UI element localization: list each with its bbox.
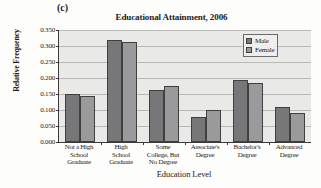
bar-female — [206, 110, 221, 142]
y-tick-mark — [56, 142, 59, 143]
x-category-label-line: Graduate — [100, 159, 142, 167]
x-category-label: Not a HighSchoolGraduate — [58, 144, 100, 167]
x-axis-title: Education Level — [58, 169, 310, 179]
x-category-label-line: Degree — [268, 152, 310, 160]
bar-female — [290, 113, 305, 142]
legend: MaleFemale — [243, 34, 278, 57]
legend-label: Female — [255, 46, 274, 54]
bar-female — [80, 96, 95, 142]
bar-female — [122, 42, 137, 142]
legend-label: Male — [255, 37, 269, 45]
bar-male — [107, 40, 122, 142]
y-tick-label: 0.300 — [40, 42, 55, 50]
y-axis-title: Relative Frequency — [12, 6, 21, 116]
y-tick-label: 0.050 — [40, 122, 55, 130]
y-tick-label: 0.150 — [40, 90, 55, 98]
chart-title: Educational Attainment, 2006 — [0, 12, 321, 22]
y-tick-label: 0.200 — [40, 74, 55, 82]
bar-male — [191, 117, 206, 142]
bar-group — [143, 30, 185, 142]
legend-item-female: Female — [246, 46, 274, 54]
y-tick-label: 0.250 — [40, 58, 55, 66]
legend-swatch-male — [246, 38, 252, 44]
x-category-label: Bachelor'sDegree — [226, 144, 268, 159]
bar-group — [185, 30, 227, 142]
y-tick-label: 0.000 — [40, 138, 55, 146]
bar-male — [233, 80, 248, 142]
bar-group — [101, 30, 143, 142]
legend-swatch-female — [246, 47, 252, 53]
bar-male — [149, 90, 164, 142]
bar-male — [275, 107, 290, 142]
bar-female — [164, 86, 179, 142]
x-category-label: AdvancedDegree — [268, 144, 310, 159]
y-tick-label: 0.350 — [40, 26, 55, 34]
x-category-label: Associate'sDegree — [184, 144, 226, 159]
x-category-label-line: Degree — [184, 152, 226, 160]
x-category-label: HighSchoolGraduate — [100, 144, 142, 167]
x-category-label-line: No Degree — [142, 159, 184, 167]
bar-group — [59, 30, 101, 142]
bar-male — [65, 94, 80, 142]
x-category-label: SomeCollege, ButNo Degree — [142, 144, 184, 167]
x-category-label-line: Degree — [226, 152, 268, 160]
legend-item-male: Male — [246, 37, 274, 45]
bar-female — [248, 83, 263, 142]
figure: (c) Educational Attainment, 2006 Relativ… — [0, 0, 321, 188]
x-category-label-line: Graduate — [58, 159, 100, 167]
y-tick-label: 0.100 — [40, 106, 55, 114]
